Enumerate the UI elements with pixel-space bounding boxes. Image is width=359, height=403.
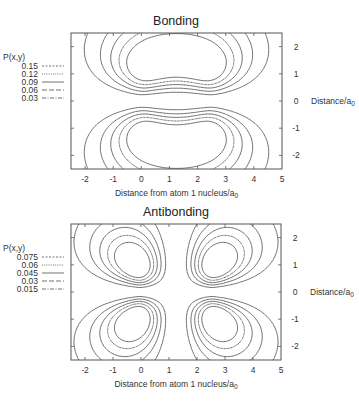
y-axis-label-subscript: 0: [350, 291, 354, 298]
y-tick-label: 1: [294, 69, 299, 79]
y-axis-label: Distance/a0: [311, 96, 355, 107]
contour-group: [74, 224, 278, 360]
x-tick-label: 2: [195, 174, 200, 184]
legend: P(x,y) 0.150.120.090.060.03: [3, 52, 64, 103]
y-tick-label: -1: [291, 314, 299, 324]
chart-title: Antibonding: [143, 205, 209, 219]
x-tick-label: 3: [223, 174, 228, 184]
y-tick-label: 2: [294, 42, 299, 52]
x-tick-label: -2: [81, 174, 89, 184]
y-tick-label: -2: [292, 150, 300, 160]
x-axis-label-subscript: 0: [234, 192, 238, 199]
contour-level-0.06: [100, 33, 252, 169]
plot-frame: [71, 33, 282, 169]
x-tick-label: 5: [280, 174, 285, 184]
contour-level-0.075: [115, 242, 238, 341]
contour-level-0.09: [111, 33, 242, 169]
x-tick-label: -1: [109, 365, 117, 375]
y-axis-label-text: Distance/a: [311, 96, 351, 106]
legend-level-label: 0.015: [17, 284, 39, 294]
axis-ticks: -2-1012345210-1-2: [71, 33, 300, 184]
y-axis-label: Distance/a0: [310, 287, 354, 298]
x-axis-label-text: Distance from atom 1 nucleus/a: [114, 379, 234, 389]
contour-level-0.15: [127, 34, 227, 169]
plot-frame: [71, 224, 281, 360]
x-tick-label: 1: [167, 365, 172, 375]
chart-title: Bonding: [153, 14, 199, 28]
x-tick-label: 5: [279, 365, 284, 375]
y-axis-label-text: Distance/a: [310, 287, 350, 297]
contour-group: [84, 33, 268, 169]
y-tick-label: 2: [293, 233, 298, 243]
x-axis-label-text: Distance from atom 1 nucleus/a: [115, 188, 235, 198]
contour-level-0.045: [100, 227, 252, 356]
x-tick-label: 1: [167, 174, 172, 184]
y-tick-label: 0: [293, 287, 298, 297]
x-tick-label: 2: [195, 365, 200, 375]
y-tick-label: 1: [293, 260, 298, 270]
x-axis-label: Distance from atom 1 nucleus/a0: [114, 379, 238, 390]
y-tick-label: -2: [291, 341, 299, 351]
x-tick-label: 4: [251, 365, 256, 375]
x-tick-label: 3: [223, 365, 228, 375]
y-axis-label-subscript: 0: [351, 100, 355, 107]
bonding-panel: Bonding -2-1012345210-1-2 Distance from …: [3, 14, 355, 199]
x-tick-label: 0: [139, 174, 144, 184]
legend-level-label: 0.03: [21, 93, 38, 103]
legend: P(x,y) 0.0750.060.0450.030.015: [3, 243, 64, 294]
contour-level-0.03: [90, 224, 263, 360]
x-axis-label-subscript: 0: [234, 383, 238, 390]
antibonding-panel: Antibonding -2-1012345210-1-2 Distance f…: [3, 205, 354, 390]
x-tick-label: -1: [109, 174, 117, 184]
x-tick-label: 4: [251, 174, 256, 184]
contour-level-0.03: [84, 33, 268, 169]
axis-ticks: -2-1012345210-1-2: [71, 224, 299, 375]
x-tick-label: 0: [139, 365, 144, 375]
y-tick-label: 0: [294, 96, 299, 106]
contour-charts: Bonding -2-1012345210-1-2 Distance from …: [0, 0, 359, 403]
y-tick-label: -1: [292, 123, 300, 133]
x-tick-label: -2: [81, 365, 89, 375]
contour-level-0.06: [108, 235, 245, 348]
x-axis-label: Distance from atom 1 nucleus/a0: [115, 188, 239, 199]
contour-level-0.015: [74, 224, 278, 360]
contour-level-0.12: [119, 33, 234, 169]
